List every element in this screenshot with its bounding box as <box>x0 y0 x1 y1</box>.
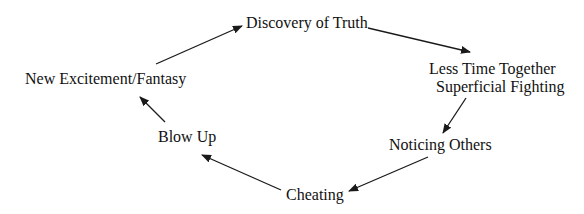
node-label-line-1: Less Time Together <box>429 60 564 78</box>
node-label: Blow Up <box>158 128 216 146</box>
node-cheating: Cheating <box>286 186 344 204</box>
node-blow-up: Blow Up <box>158 128 216 146</box>
node-label: Cheating <box>286 186 344 204</box>
node-label: New Excitement/Fantasy <box>25 70 186 88</box>
node-new-excitement-fantasy: New Excitement/Fantasy <box>25 70 186 88</box>
node-label: Discovery of Truth <box>246 14 368 32</box>
node-discovery-of-truth: Discovery of Truth <box>246 14 368 32</box>
arrow-blow-up-to-new-excitement <box>140 97 165 122</box>
node-label-line-2: Superficial Fighting <box>429 78 564 96</box>
cycle-diagram: Discovery of Truth Less Time Together Su… <box>0 0 584 214</box>
arrows-layer <box>0 0 584 214</box>
node-less-time-together: Less Time Together Superficial Fighting <box>429 60 564 96</box>
arrow-cheating-to-blow-up <box>202 155 281 190</box>
node-label: Noticing Others <box>389 136 492 154</box>
arrow-new-excitement-to-discovery <box>156 26 242 64</box>
node-noticing-others: Noticing Others <box>389 136 492 154</box>
arrow-noticing-to-cheating <box>349 157 428 191</box>
arrow-discovery-to-less-time <box>368 28 470 52</box>
arrow-less-time-to-noticing <box>443 98 466 133</box>
